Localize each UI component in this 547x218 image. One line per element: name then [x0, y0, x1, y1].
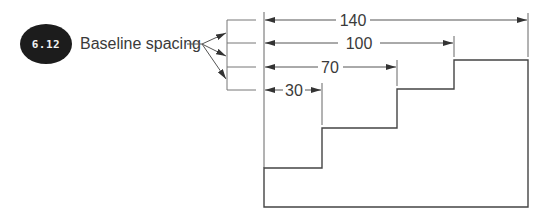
- dimension-30: 30: [285, 82, 303, 99]
- leader-lines: [187, 33, 226, 79]
- extension-lines: [322, 13, 528, 125]
- dimension-140: 140: [340, 12, 367, 29]
- dimension-70: 70: [321, 59, 339, 76]
- dimension-drawing: 140 100 70 30: [0, 0, 547, 218]
- spacing-bracket: [227, 20, 256, 90]
- dimension-lines: [265, 20, 527, 90]
- diagram-stage: 6.12 Baseline spacing: [0, 0, 547, 218]
- stepped-part-outline: [264, 60, 528, 207]
- dimension-100: 100: [346, 35, 373, 52]
